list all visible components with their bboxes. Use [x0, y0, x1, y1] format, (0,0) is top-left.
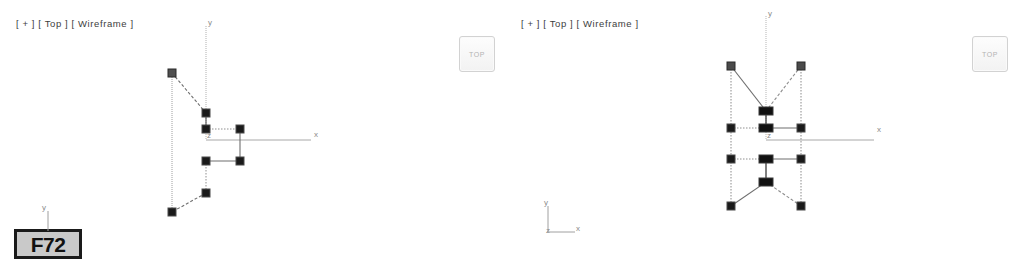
badge-axis-indicator: y	[42, 203, 48, 231]
left-axis-z-label: z	[207, 131, 211, 140]
viewport-container: [ + ] [ Top ] [ Wireframe ] [ + ] [ Top …	[0, 0, 1015, 271]
vertex-handle[interactable]	[759, 107, 773, 115]
view-cube-top-button-2[interactable]: TOP	[972, 36, 1008, 72]
viewport-label-left[interactable]: [ + ] [ Top ] [ Wireframe ]	[16, 18, 134, 29]
vertex-handle[interactable]	[236, 157, 244, 165]
right-wireframe-group: y x z	[727, 9, 881, 210]
vertex-handle[interactable]	[759, 155, 773, 163]
tripod-axis-y-label: y	[544, 198, 548, 207]
tripod-axis-x-label: x	[576, 224, 580, 233]
vertex-handle[interactable]	[236, 125, 244, 133]
right-edge-bottom-left-diagonal	[731, 182, 766, 206]
view-cube-top-button-2-label: TOP	[982, 51, 998, 58]
right-axis-y-label: y	[768, 9, 772, 18]
left-axis-x-label: x	[314, 130, 318, 139]
vertex-handle[interactable]	[168, 69, 176, 77]
vertex-handle[interactable]	[797, 155, 805, 163]
vertex-handle[interactable]	[727, 62, 735, 70]
vertex-handle[interactable]	[797, 62, 805, 70]
left-wireframe-group: y x z	[168, 18, 318, 216]
right-edge-top-right-diagonal	[766, 66, 801, 111]
vertex-handle[interactable]	[759, 124, 773, 132]
wireframe-canvas: y x z	[0, 0, 1015, 271]
left-edge-bottom-diagonal	[172, 193, 206, 212]
right-vertex-handles[interactable]	[727, 62, 805, 210]
vertex-handle[interactable]	[202, 109, 210, 117]
object-name-badge[interactable]: F72	[14, 229, 82, 259]
view-cube-top-button-1[interactable]: TOP	[459, 36, 495, 72]
vertex-handle[interactable]	[202, 157, 210, 165]
right-edge-top-left-diagonal	[731, 66, 766, 111]
vertex-handle[interactable]	[727, 124, 735, 132]
vertex-handle[interactable]	[727, 202, 735, 210]
vertex-handle[interactable]	[797, 202, 805, 210]
right-axis-z-label: z	[767, 131, 771, 140]
badge-axis-y-label: y	[42, 203, 46, 212]
left-axis-y-label: y	[208, 18, 212, 27]
vertex-handle[interactable]	[202, 125, 210, 133]
viewport-label-right[interactable]: [ + ] [ Top ] [ Wireframe ]	[521, 18, 639, 29]
left-edge-top-diagonal	[172, 73, 206, 113]
vertex-handle[interactable]	[797, 124, 805, 132]
vertex-handle[interactable]	[759, 178, 773, 186]
view-cube-top-button-1-label: TOP	[469, 51, 485, 58]
right-edge-bottom-right-diagonal	[766, 182, 801, 206]
vertex-handle[interactable]	[727, 155, 735, 163]
right-axis-x-label: x	[877, 125, 881, 134]
vertex-handle[interactable]	[168, 208, 176, 216]
axis-tripod: y x z	[544, 198, 580, 235]
left-vertex-handles[interactable]	[168, 69, 244, 216]
tripod-axis-z-label: z	[546, 226, 550, 235]
vertex-handle[interactable]	[202, 189, 210, 197]
object-name-badge-label: F72	[31, 234, 66, 255]
